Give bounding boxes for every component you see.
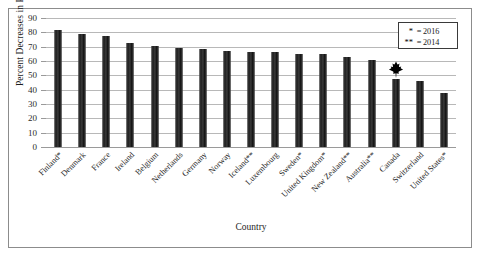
bar-slot [360, 18, 384, 147]
bar[interactable] [440, 93, 447, 147]
bar-slot [167, 18, 191, 147]
bar[interactable] [368, 60, 375, 147]
bar-slot [46, 18, 70, 147]
bar[interactable] [272, 52, 279, 147]
x-tick: Luxembourg [263, 149, 287, 211]
bar-slot [215, 18, 239, 147]
legend-year-2016: 2016 [423, 27, 439, 36]
bar[interactable] [223, 51, 230, 147]
y-tick-label: 90 [28, 14, 37, 23]
bar[interactable] [103, 36, 110, 147]
x-tick: Netherlands [167, 149, 191, 211]
y-tick-label: 60 [28, 57, 37, 66]
legend-symbol-single-asterisk: * [399, 27, 415, 36]
y-tick-label: 50 [28, 71, 37, 80]
x-tick: France [94, 149, 118, 211]
legend-equals-sign: = [415, 38, 423, 47]
bar[interactable] [151, 46, 158, 147]
y-tick-label: 20 [28, 114, 37, 123]
bar[interactable] [247, 52, 254, 147]
bar-slot [94, 18, 118, 147]
bar-slot [142, 18, 166, 147]
bar[interactable] [392, 79, 399, 147]
bar-slot [70, 18, 94, 147]
y-tick-label: 70 [28, 42, 37, 51]
bar-slot [335, 18, 359, 147]
bar-slot [287, 18, 311, 147]
gridline [46, 147, 456, 148]
bar-slot [311, 18, 335, 147]
y-tick-label: 80 [28, 28, 37, 37]
x-tick: Finland* [46, 149, 70, 211]
bar[interactable] [55, 30, 62, 147]
x-tick: Denmark [70, 149, 94, 211]
y-tick-label: 30 [28, 100, 37, 109]
bar-slot [263, 18, 287, 147]
bar[interactable] [175, 48, 182, 147]
x-tick-label: France [90, 151, 112, 173]
x-tick: Ireland [118, 149, 142, 211]
legend-symbol-double-asterisk: ** [399, 38, 415, 47]
bar-slot [118, 18, 142, 147]
bar-slot [239, 18, 263, 147]
y-axis: 0102030405060708090 [0, 0, 46, 271]
chart-figure: Percent Decreases in Poverty Rate 010203… [0, 0, 481, 271]
x-axis-tick-labels: Finland*DenmarkFranceIrelandBelgiumNethe… [46, 149, 456, 211]
x-tick: Norway [215, 149, 239, 211]
bar[interactable] [416, 81, 423, 147]
legend-box: * = 2016 ** = 2014 [398, 22, 458, 49]
legend-year-2014: 2014 [423, 38, 439, 47]
y-tick-label: 10 [28, 128, 37, 137]
bar-slot [191, 18, 215, 147]
x-axis-title: Country [46, 222, 456, 232]
bar[interactable] [199, 49, 206, 147]
legend-equals-sign: = [415, 27, 423, 36]
bar[interactable] [320, 54, 327, 147]
maple-leaf-icon [388, 61, 404, 78]
bar[interactable] [344, 57, 351, 147]
bar[interactable] [79, 34, 86, 147]
y-tick-label: 40 [28, 85, 37, 94]
y-tick-label: 0 [33, 143, 38, 152]
legend-item-2014: ** = 2014 [399, 36, 457, 48]
bar[interactable] [296, 54, 303, 147]
bar[interactable] [127, 43, 134, 147]
x-tick: Australia** [360, 149, 384, 211]
plot-area [46, 18, 456, 147]
bar-series [46, 18, 456, 147]
x-tick: United States* [432, 149, 456, 211]
x-tick: Germany [191, 149, 215, 211]
